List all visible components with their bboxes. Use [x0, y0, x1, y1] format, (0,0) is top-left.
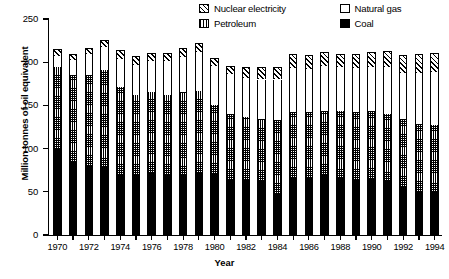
bar-segment-petroleum [430, 125, 439, 192]
bar-segment-coal [242, 180, 251, 235]
legend-label: Natural gas [355, 3, 402, 14]
legend-entry-petroleum: Petroleum [199, 18, 332, 29]
bar-segment-petroleum [100, 70, 109, 167]
bar-1975 [132, 56, 141, 235]
bar-segment-coal [226, 180, 235, 235]
bar-segment-coal [100, 167, 109, 235]
x-tick [135, 236, 136, 240]
bar-segment-petroleum [210, 105, 219, 174]
x-tick [151, 236, 152, 240]
bar-segment-coal [352, 180, 361, 235]
bar-1982 [242, 67, 251, 235]
bar-1985 [289, 54, 298, 235]
bar-segment-nuclear-electricity [289, 54, 298, 68]
bar-segment-petroleum [195, 91, 204, 173]
bar-segment-petroleum [415, 124, 424, 191]
bar-segment-coal [273, 194, 282, 235]
bar-segment-coal [69, 162, 78, 235]
bar-segment-petroleum [242, 117, 251, 180]
bar-segment-natural-gas [336, 67, 345, 110]
bar-1988 [336, 54, 345, 235]
white-icon [340, 4, 350, 13]
bar-1986 [305, 55, 314, 235]
stacked-bar-chart: 050100150200250 Million tonnes of oil eq… [0, 0, 449, 279]
bar-1990 [367, 52, 376, 235]
bar-segment-nuclear-electricity [163, 53, 172, 62]
bar-segment-natural-gas [85, 54, 94, 75]
x-tick [324, 236, 325, 240]
bar-segment-nuclear-electricity [257, 67, 266, 79]
bar-segment-coal [257, 181, 266, 235]
bar-segment-nuclear-electricity [383, 51, 392, 67]
bar-segment-natural-gas [100, 47, 109, 70]
bar-1993 [415, 54, 424, 235]
x-tick [230, 236, 231, 240]
bar-segment-nuclear-electricity [273, 67, 282, 79]
bar-segment-coal [367, 179, 376, 235]
bar-segment-coal [289, 178, 298, 235]
bars-layer [0, 0, 449, 279]
bar-segment-petroleum [305, 112, 314, 178]
bar-segment-nuclear-electricity [53, 49, 62, 56]
x-tick [387, 236, 388, 240]
x-tick [355, 236, 356, 240]
bar-1974 [116, 50, 125, 235]
x-tick [183, 236, 184, 240]
bar-1971 [69, 54, 78, 235]
bar-segment-natural-gas [116, 59, 125, 88]
bar-segment-nuclear-electricity [352, 54, 361, 69]
bar-segment-natural-gas [69, 60, 78, 75]
x-tick [57, 236, 58, 240]
x-tick [371, 236, 372, 240]
bar-segment-coal [195, 173, 204, 235]
bar-segment-nuclear-electricity [147, 53, 156, 62]
bar-segment-petroleum [226, 114, 235, 180]
bar-segment-nuclear-electricity [242, 67, 251, 77]
bar-1976 [147, 53, 156, 235]
bar-segment-nuclear-electricity [85, 48, 94, 55]
bar-1970 [53, 49, 62, 235]
bar-segment-coal [320, 175, 329, 235]
legend-label: Coal [355, 18, 374, 29]
legend-label: Petroleum [214, 18, 256, 29]
bar-1972 [85, 48, 94, 235]
bar-segment-coal [383, 181, 392, 235]
bar-1980 [210, 58, 219, 235]
x-tick [72, 236, 73, 240]
x-tick [198, 236, 199, 240]
bar-segment-petroleum [367, 111, 376, 179]
bar-segment-coal [116, 175, 125, 235]
bar-segment-natural-gas [383, 67, 392, 114]
x-tick-label: 1994 [415, 242, 449, 252]
x-tick [308, 236, 309, 240]
bar-segment-nuclear-electricity [179, 48, 188, 57]
legend-entry-nuclear-electricity: Nuclear electricity [199, 3, 332, 14]
bar-1992 [399, 55, 408, 235]
bar-segment-coal [399, 187, 408, 235]
x-tick [104, 236, 105, 240]
bar-segment-natural-gas [367, 67, 376, 111]
bar-segment-coal [336, 178, 345, 235]
bar-segment-natural-gas [147, 61, 156, 92]
bar-1984 [273, 67, 282, 235]
bar-1987 [320, 52, 329, 235]
x-tick [277, 236, 278, 240]
bar-segment-natural-gas [257, 80, 266, 120]
x-tick [245, 236, 246, 240]
bar-segment-coal [163, 175, 172, 235]
diagonal-hatch-icon [199, 4, 209, 13]
bar-segment-petroleum [399, 119, 408, 186]
bar-segment-nuclear-electricity [195, 43, 204, 52]
legend-entry-natural-gas: Natural gas [340, 3, 447, 14]
bar-segment-natural-gas [415, 73, 424, 125]
bar-segment-petroleum [289, 112, 298, 178]
bar-segment-petroleum [53, 67, 62, 149]
bar-1977 [163, 53, 172, 235]
bar-segment-petroleum [132, 95, 141, 174]
bar-segment-coal [305, 178, 314, 235]
chart-legend: Nuclear electricityNatural gasPetroleumC… [199, 3, 447, 29]
vertical-line-icon [199, 19, 209, 28]
bar-1978 [179, 48, 188, 235]
bar-segment-natural-gas [399, 73, 408, 120]
bar-segment-petroleum [383, 114, 392, 181]
